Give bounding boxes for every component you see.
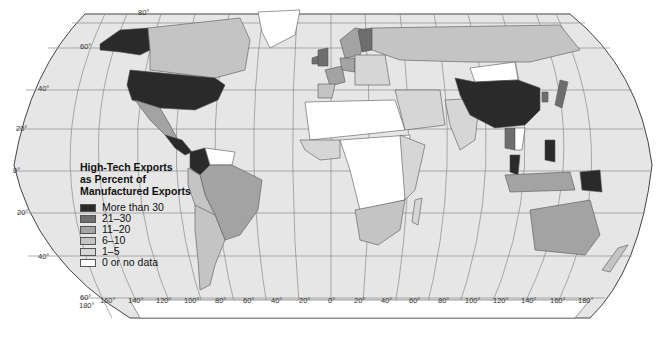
swatch-more-than-30 (80, 204, 96, 212)
region-canada (148, 18, 250, 78)
lon-label-160e: 160° (550, 296, 566, 305)
lat-label-40s: 40° (38, 252, 49, 261)
lat-label-60n: 60° (80, 42, 91, 51)
region-australia (530, 200, 600, 255)
region-korea (542, 92, 548, 102)
region-philippines (545, 140, 555, 162)
legend-label: 0 or no data (102, 257, 158, 268)
lon-label-80w: 80° (215, 296, 226, 305)
lat-label-40n: 40° (38, 84, 49, 93)
region-png (580, 170, 602, 192)
legend-title-line-2: as Percent of (80, 173, 230, 185)
lon-label-40e: 40° (381, 296, 392, 305)
legend-items: More than 30 21–30 11–20 6–10 1–5 0 or n… (80, 202, 230, 268)
lat-label-20n: 20° (16, 124, 27, 133)
swatch-11-20 (80, 226, 96, 234)
region-russia (372, 25, 580, 62)
lon-label-60w: 60° (243, 296, 254, 305)
swatch-21-30 (80, 215, 96, 223)
region-indonesia (505, 172, 575, 192)
lon-label-180w: 180° (79, 301, 95, 310)
lon-label-120w: 120° (156, 296, 172, 305)
region-iberia (318, 84, 335, 98)
lon-label-20w: 20° (299, 296, 310, 305)
lon-label-60e: 60° (409, 296, 420, 305)
swatch-0-or-no-data (80, 259, 96, 267)
lon-label-180e: 180° (578, 296, 594, 305)
lon-label-80e: 80° (438, 296, 449, 305)
region-thailand (505, 128, 515, 150)
swatch-6-10 (80, 237, 96, 245)
lon-label-20e: 20° (354, 296, 365, 305)
region-malaysia (510, 155, 520, 175)
lon-label-100w: 100° (184, 296, 200, 305)
lon-label-100e: 100° (465, 296, 481, 305)
legend-title-line-3: Manufactured Exports (80, 185, 230, 197)
swatch-1-5 (80, 248, 96, 256)
region-eastern-europe (355, 55, 390, 85)
lat-label-20s: 20° (17, 208, 28, 217)
legend-title-line-1: High-Tech Exports (80, 161, 230, 173)
region-germany (340, 58, 355, 72)
lon-label-160w: 160° (100, 296, 116, 305)
legend-item-0-or-no-data: 0 or no data (80, 257, 230, 268)
lon-label-0: 0° (328, 296, 335, 305)
lon-label-140e: 140° (521, 296, 537, 305)
lat-label-equator: 0° (13, 166, 20, 175)
map-legend: High-Tech Exports as Percent of Manufact… (80, 161, 230, 268)
lon-label-40w: 40° (271, 296, 282, 305)
lon-label-140w: 140° (128, 296, 144, 305)
region-uk (318, 48, 328, 66)
lat-label-80n: 80° (138, 8, 149, 17)
lon-label-120e: 120° (493, 296, 509, 305)
